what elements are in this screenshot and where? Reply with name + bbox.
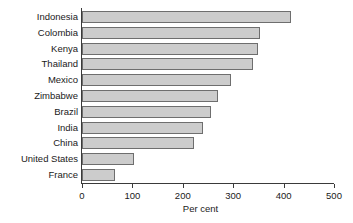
y-axis-label: Colombia <box>0 27 78 39</box>
bar <box>82 122 203 134</box>
bar-row <box>82 122 334 134</box>
y-axis-category-labels: IndonesiaColombiaKenyaThailandMexicoZimb… <box>0 9 78 183</box>
x-tick-label: 500 <box>326 190 342 201</box>
y-axis-label: India <box>0 122 78 134</box>
x-tick-label: 200 <box>175 190 191 201</box>
bar <box>82 27 260 39</box>
bar-row <box>82 137 334 149</box>
bar <box>82 58 253 70</box>
x-axis-line <box>81 183 334 184</box>
bar <box>82 169 115 181</box>
bar-row <box>82 153 334 165</box>
x-tick-mark <box>183 184 184 188</box>
x-tick-mark <box>284 184 285 188</box>
bar <box>82 11 291 23</box>
x-tick-label: 0 <box>79 190 84 201</box>
y-axis-label: China <box>0 137 78 149</box>
x-tick-label: 100 <box>124 190 140 201</box>
x-tick-mark <box>233 184 234 188</box>
bar-row <box>82 27 334 39</box>
bar <box>82 137 194 149</box>
x-tick-label: 400 <box>276 190 292 201</box>
bar <box>82 90 218 102</box>
x-tick-mark <box>82 184 83 188</box>
x-axis-title: Per cent <box>0 203 353 214</box>
y-axis-label: Kenya <box>0 43 78 55</box>
plot-area <box>82 9 334 183</box>
x-tick-label: 300 <box>225 190 241 201</box>
y-axis-label: Indonesia <box>0 11 78 23</box>
y-axis-label: Zimbabwe <box>0 90 78 102</box>
bar-row <box>82 169 334 181</box>
y-axis-label: United States <box>0 153 78 165</box>
x-tick-mark <box>132 184 133 188</box>
bar-row <box>82 90 334 102</box>
bar-row <box>82 74 334 86</box>
bar <box>82 74 231 86</box>
bar-row <box>82 11 334 23</box>
bar-row <box>82 58 334 70</box>
bar <box>82 106 211 118</box>
bar-row <box>82 43 334 55</box>
bar-row <box>82 106 334 118</box>
y-axis-label: Thailand <box>0 58 78 70</box>
y-axis-line <box>81 8 82 184</box>
bar <box>82 43 258 55</box>
bar-chart: IndonesiaColombiaKenyaThailandMexicoZimb… <box>0 0 353 223</box>
y-axis-label: Mexico <box>0 74 78 86</box>
y-axis-label: Brazil <box>0 106 78 118</box>
bar <box>82 153 134 165</box>
x-tick-mark <box>334 184 335 188</box>
y-axis-label: France <box>0 169 78 181</box>
